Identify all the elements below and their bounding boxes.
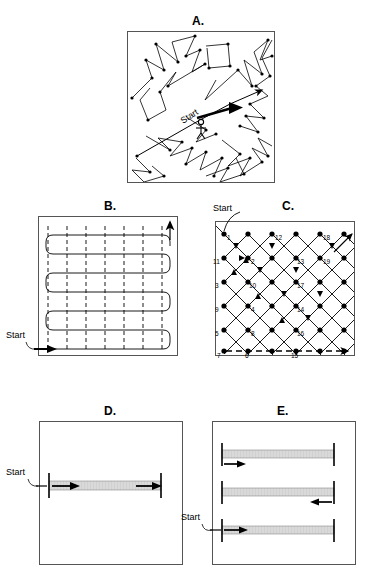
panel-e-transect-band-1 (222, 450, 334, 458)
panel-e-arrow-2 (310, 499, 332, 506)
panel-e-transect-svg (0, 0, 371, 579)
figure-root: A. (0, 0, 371, 579)
panel-e-start-label: Start (181, 512, 200, 522)
panel-e-arrow-1 (224, 461, 246, 468)
panel-e-transect-band-2 (222, 488, 334, 496)
